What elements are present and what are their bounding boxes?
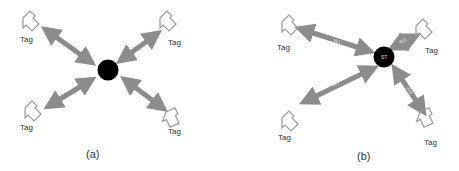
- arrow-a4: [128, 82, 160, 106]
- tag-icon: [416, 19, 432, 39]
- arrow-a3: [52, 82, 88, 104]
- center-label: ST: [381, 54, 387, 60]
- center-node-a: [98, 60, 119, 81]
- panel-b: W1 W2 W3 W4 ST Tag Tag Tag Tag (b): [277, 15, 438, 162]
- tag-label: Tag: [168, 38, 181, 47]
- diagram: Tag Tag Tag Tag (a) W1 W2 W3 W4 ST Tag T…: [0, 0, 459, 171]
- tag-label: Tag: [278, 133, 291, 142]
- tag-icon: [23, 11, 39, 31]
- tag-icon: [25, 101, 41, 121]
- tag-label: Tag: [168, 127, 181, 136]
- caption-b: (b): [357, 150, 370, 162]
- tag-label: Tag: [277, 43, 290, 52]
- arrow-a1: [49, 32, 88, 60]
- tag-label: Tag: [425, 46, 438, 55]
- panel-a: Tag Tag Tag Tag (a): [20, 11, 183, 160]
- tag-icon: [160, 11, 176, 31]
- tag-icon: [282, 15, 298, 35]
- caption-a: (a): [86, 148, 99, 160]
- tag-label: Tag: [424, 138, 437, 147]
- tag-label: Tag: [20, 35, 33, 44]
- arrow-a2: [124, 36, 154, 58]
- tag-icon: [282, 111, 298, 131]
- tag-label: Tag: [20, 123, 33, 132]
